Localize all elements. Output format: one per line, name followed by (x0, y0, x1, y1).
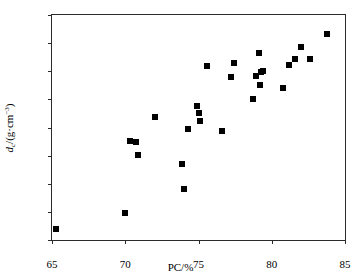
y-axis-label-exponent: −3 (3, 107, 11, 114)
data-point (257, 82, 263, 88)
x-tick-mark (272, 240, 273, 244)
y-axis-label-unit-open: /(g·cm (3, 115, 15, 144)
data-point (231, 60, 237, 66)
y-axis-label: dc/(g·cm−3) (3, 68, 17, 188)
y-axis-label-unit-close: ) (3, 103, 15, 107)
data-point (298, 44, 304, 50)
x-tick-mark (52, 240, 53, 244)
data-point (53, 226, 59, 232)
data-point (280, 85, 286, 91)
data-point (204, 63, 210, 69)
y-axis-label-subscript: c (9, 144, 17, 147)
data-point (194, 103, 200, 109)
plot-area: 1.31.41.51.61.71.81.92.02.1 6570758085 (51, 14, 346, 241)
x-tick-mark (199, 240, 200, 244)
figure: 1.31.41.51.61.71.81.92.02.1 6570758085 P… (0, 0, 361, 280)
data-point (185, 126, 191, 132)
data-point (219, 128, 225, 134)
x-tick-mark (345, 240, 346, 244)
x-axis-label: PC/% (0, 261, 361, 273)
data-point (256, 50, 262, 56)
data-point (179, 161, 185, 167)
data-point (260, 68, 266, 74)
data-point (286, 62, 292, 68)
data-point (228, 74, 234, 80)
data-point (181, 186, 187, 192)
data-point (196, 110, 202, 116)
data-point (292, 56, 298, 62)
data-point (197, 118, 203, 124)
scatter-series (52, 15, 345, 240)
data-point (122, 210, 128, 216)
data-point (133, 139, 139, 145)
data-point (152, 114, 158, 120)
data-point (324, 31, 330, 37)
data-point (135, 152, 141, 158)
x-tick-mark (125, 240, 126, 244)
data-point (250, 96, 256, 102)
y-axis-label-symbol: d (3, 147, 15, 153)
data-point (307, 56, 313, 62)
